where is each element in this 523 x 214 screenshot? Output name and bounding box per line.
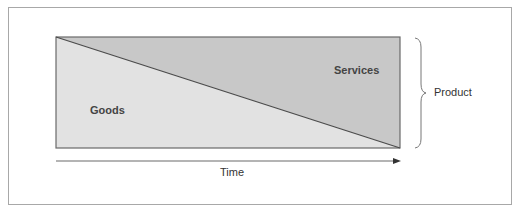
services-label: Services <box>334 64 379 76</box>
product-label: Product <box>434 86 472 98</box>
goods-services-diagram <box>0 0 523 214</box>
goods-label: Goods <box>90 104 125 116</box>
time-label: Time <box>220 166 244 178</box>
curly-brace-icon <box>415 38 426 148</box>
time-arrow <box>56 158 401 164</box>
arrowhead-icon <box>393 158 401 164</box>
